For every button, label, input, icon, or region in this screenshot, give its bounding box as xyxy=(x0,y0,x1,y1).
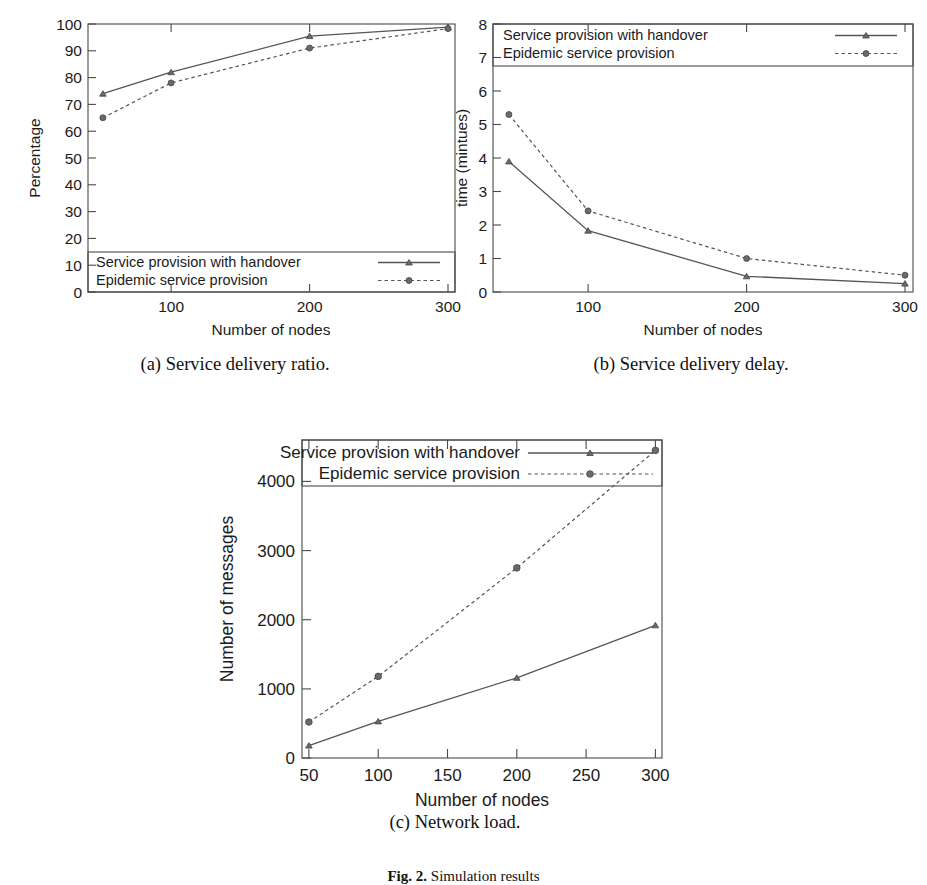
series-a-solid xyxy=(103,27,448,94)
legend-c-marker-dashed xyxy=(587,471,594,478)
x-tick-a-100: 100 xyxy=(158,298,184,315)
x-axis-title-c: Number of nodes xyxy=(415,790,549,808)
chart-b-svg: 0 1 2 3 4 5 6 7 8 100 200 xyxy=(455,0,927,345)
x-tick-c-50: 50 xyxy=(299,766,318,785)
legend-b: Service provision with handover Epidemic… xyxy=(493,24,913,66)
chart-panel-b: 0 1 2 3 4 5 6 7 8 100 200 xyxy=(455,0,927,345)
y-tick-b-4: 4 xyxy=(478,150,487,167)
chart-c-svg: 0 1000 2000 3000 4000 xyxy=(175,418,735,808)
series-b-solid-markers xyxy=(506,158,909,286)
plot-frame-c xyxy=(302,440,662,758)
y-tick-b-5: 5 xyxy=(478,116,487,133)
legend-a-label-solid: Service provision with handover xyxy=(96,254,301,270)
y-tick-b-8: 8 xyxy=(478,16,487,33)
x-tick-c-300: 300 xyxy=(641,766,669,785)
y-tick-a-80: 80 xyxy=(65,69,83,86)
x-tick-c-200: 200 xyxy=(503,766,531,785)
y-tick-a-100: 100 xyxy=(56,16,82,33)
series-c-dashed xyxy=(309,450,656,722)
x-tick-c-250: 250 xyxy=(572,766,600,785)
figure-caption: Fig. 2. Simulation results xyxy=(0,868,927,885)
legend-b-label-solid: Service provision with handover xyxy=(503,27,708,43)
panel-caption-b: (b) Service delivery delay. xyxy=(455,354,927,375)
legend-c-label-solid: Service provision with handover xyxy=(280,443,520,462)
figure-caption-prefix: Fig. 2. xyxy=(387,868,427,884)
y-axis-ticks-c xyxy=(302,481,311,758)
chart-panel-a: 0 10 20 30 40 50 60 70 80 90 100 xyxy=(0,0,470,345)
y-axis-title-c: Number of messages xyxy=(217,516,237,683)
y-axis-tick-labels-b: 0 1 2 3 4 5 6 7 8 xyxy=(478,16,487,301)
y-tick-a-0: 0 xyxy=(73,284,82,301)
series-a-dashed xyxy=(103,29,448,118)
legend-b-label-dashed: Epidemic service provision xyxy=(503,45,675,61)
x-axis-ticks-c xyxy=(309,440,656,758)
y-tick-a-70: 70 xyxy=(65,96,83,113)
legend-c-label-dashed: Epidemic service provision xyxy=(319,464,520,483)
chart-a-svg: 0 10 20 30 40 50 60 70 80 90 100 xyxy=(0,0,470,345)
x-axis-tick-labels-b: 100 200 300 xyxy=(575,298,918,315)
series-b-solid xyxy=(509,161,905,283)
y-tick-a-90: 90 xyxy=(65,42,83,59)
chart-panel-c: 0 1000 2000 3000 4000 xyxy=(175,418,735,808)
y-axis-tick-labels-c: 0 1000 2000 3000 4000 xyxy=(257,472,295,768)
y-tick-b-1: 1 xyxy=(478,250,487,267)
legend-b-marker-dashed xyxy=(863,51,869,57)
x-axis-tick-labels-c: 50 100 150 200 250 300 xyxy=(299,766,669,785)
y-tick-c-3000: 3000 xyxy=(257,542,295,561)
panel-caption-a: (a) Service delivery ratio. xyxy=(0,354,470,375)
series-b-dashed xyxy=(509,115,905,276)
y-tick-c-0: 0 xyxy=(286,749,295,768)
plot-frame-b xyxy=(493,24,913,292)
legend-a-marker-dashed xyxy=(406,278,412,284)
series-a-dashed-markers xyxy=(100,26,451,121)
y-tick-c-2000: 2000 xyxy=(257,611,295,630)
y-axis-tick-labels-a: 0 10 20 30 40 50 60 70 80 90 100 xyxy=(56,16,82,301)
x-axis-ticks-b xyxy=(588,24,905,292)
legend-a-label-dashed: Epidemic service provision xyxy=(96,272,268,288)
y-tick-b-0: 0 xyxy=(478,284,487,301)
x-axis-tick-labels-a: 100 200 300 xyxy=(158,298,461,315)
legend-c: Service provision with handover Epidemic… xyxy=(280,440,662,486)
y-tick-a-20: 20 xyxy=(65,230,83,247)
panel-caption-c: (c) Network load. xyxy=(175,812,735,833)
x-tick-b-100: 100 xyxy=(575,298,601,315)
x-tick-a-200: 200 xyxy=(297,298,323,315)
y-tick-b-3: 3 xyxy=(478,183,487,200)
figure-caption-text: Simulation results xyxy=(431,868,540,884)
y-tick-b-6: 6 xyxy=(478,83,487,100)
x-tick-c-100: 100 xyxy=(364,766,392,785)
x-tick-b-200: 200 xyxy=(734,298,760,315)
x-axis-title-a: Number of nodes xyxy=(212,321,331,338)
series-c-dashed-markers xyxy=(306,447,659,725)
y-tick-c-1000: 1000 xyxy=(257,680,295,699)
y-tick-a-40: 40 xyxy=(65,176,83,193)
series-a-solid-markers xyxy=(100,24,452,96)
y-tick-b-2: 2 xyxy=(478,217,487,234)
x-axis-title-b: Number of nodes xyxy=(644,321,763,338)
series-c-solid-markers xyxy=(306,622,659,748)
x-tick-b-300: 300 xyxy=(892,298,918,315)
y-tick-a-50: 50 xyxy=(65,150,83,167)
y-axis-title-a: Percentage xyxy=(26,118,43,197)
y-axis-ticks-b xyxy=(493,24,501,292)
y-tick-a-30: 30 xyxy=(65,203,83,220)
y-tick-c-4000: 4000 xyxy=(257,472,295,491)
legend-a: Service provision with handover Epidemic… xyxy=(88,252,455,292)
y-tick-b-7: 7 xyxy=(478,49,487,66)
x-tick-c-150: 150 xyxy=(433,766,461,785)
y-axis-title-b: time (mintues) xyxy=(455,109,470,207)
y-tick-a-60: 60 xyxy=(65,123,83,140)
series-c-solid xyxy=(309,625,656,745)
series-b-dashed-markers xyxy=(506,112,908,279)
y-tick-a-10: 10 xyxy=(65,257,83,274)
